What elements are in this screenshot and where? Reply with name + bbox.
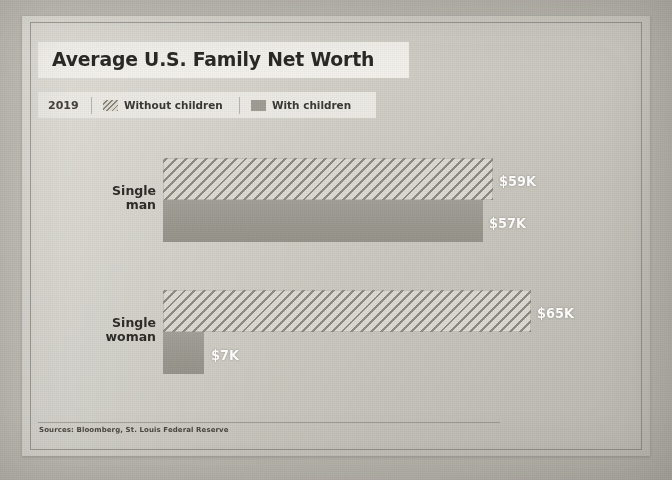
footer-divider <box>38 422 500 423</box>
bar-single-man-with-children <box>163 200 483 242</box>
value-label-single-man-with-children: $57K <box>489 215 526 231</box>
bar-group-single-man: Single man $59K $57K <box>22 156 650 256</box>
category-label-single-woman: Single woman <box>36 316 156 344</box>
category-label-line2: man <box>36 198 156 212</box>
value-label-single-man-without-children: $59K <box>499 173 536 189</box>
photographed-page: of income that have been four ent is rou… <box>0 0 672 480</box>
bar-single-woman-with-children <box>163 332 204 374</box>
category-label-line1: Single <box>36 316 156 330</box>
plot-area: Single man $59K $57K Single woman $65K $… <box>22 16 650 456</box>
value-label-single-woman-with-children: $7K <box>211 347 239 363</box>
bar-single-woman-without-children <box>163 290 531 332</box>
category-label-line1: Single <box>36 184 156 198</box>
category-label-line2: woman <box>36 330 156 344</box>
source-note: Sources: Bloomberg, St. Louis Federal Re… <box>39 426 229 434</box>
bar-group-single-woman: Single woman $65K $7K <box>22 288 650 388</box>
value-label-single-woman-without-children: $65K <box>537 305 574 321</box>
bar-single-man-without-children <box>163 158 493 200</box>
chart-card: Average U.S. Family Net Worth 2019 Witho… <box>22 16 650 456</box>
category-label-single-man: Single man <box>36 184 156 212</box>
